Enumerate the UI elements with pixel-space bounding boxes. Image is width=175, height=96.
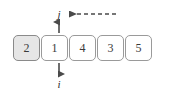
array-cell[interactable]: 4 [69,35,96,61]
array-cell-value: 2 [24,41,30,56]
pointer-label-i: i [53,79,65,90]
array-cell[interactable]: 5 [125,35,152,61]
array-cell-value: 3 [108,41,114,56]
array-cell[interactable]: 3 [97,35,124,61]
array-cell[interactable]: 1 [41,35,68,61]
array-cell-value: 4 [80,41,86,56]
array-cell-value: 1 [52,41,58,56]
array-cell-value: 5 [136,41,142,56]
array-cell[interactable]: 2 [13,35,40,61]
array-pointer-diagram: j i 2 1 4 3 5 [0,0,175,96]
array-cells: 2 1 4 3 5 [13,35,152,61]
pointer-label-j: j [53,9,65,20]
